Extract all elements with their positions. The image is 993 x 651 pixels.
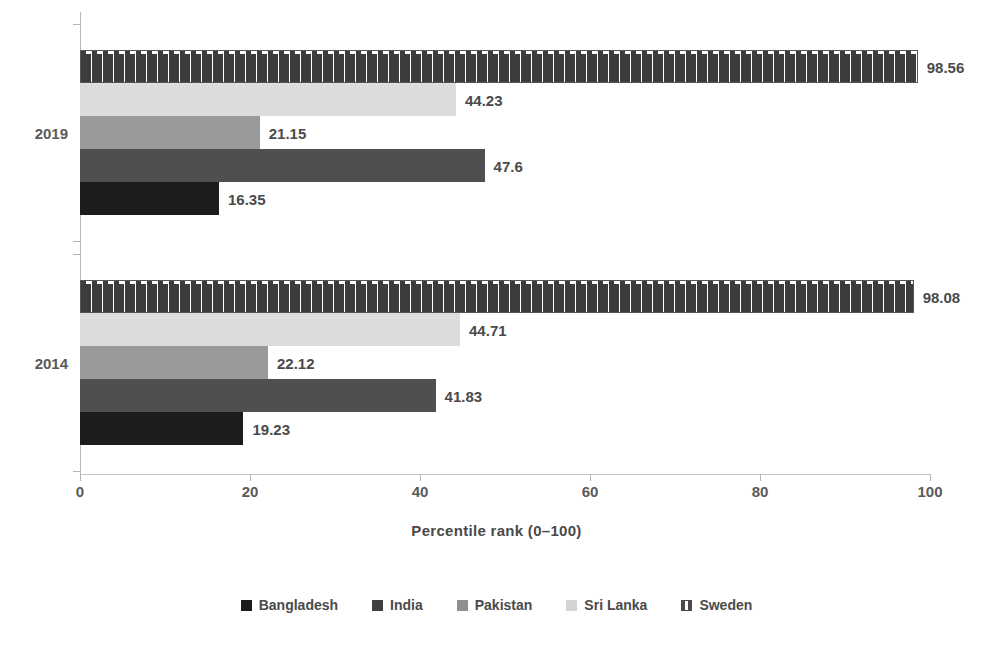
chart-legend: BangladeshIndiaPakistanSri LankaSweden <box>0 597 993 613</box>
x-axis-tick <box>930 474 931 481</box>
x-axis-tick-label: 0 <box>76 483 84 500</box>
bar-value-label: 16.35 <box>228 190 266 207</box>
bar-value-label: 47.6 <box>494 157 523 174</box>
x-axis-tick-label: 20 <box>242 483 259 500</box>
legend-item-label: Bangladesh <box>259 597 338 613</box>
bar-srilanka-2019[interactable] <box>80 83 456 116</box>
x-axis-tick-label: 40 <box>412 483 429 500</box>
legend-swatch-pakistan-icon <box>457 600 468 611</box>
group-label-2019: 2019 <box>8 124 68 141</box>
x-axis-tick-label: 100 <box>917 483 942 500</box>
legend-item-bangladesh[interactable]: Bangladesh <box>241 597 338 613</box>
bar-value-label: 44.23 <box>465 91 503 108</box>
y-axis-group-tick <box>73 24 81 25</box>
bar-srilanka-2014[interactable] <box>80 313 460 346</box>
grouped-bar-chart: 98.5644.2321.1547.616.3598.0844.7122.124… <box>0 0 993 651</box>
legend-item-label: Pakistan <box>475 597 533 613</box>
bar-india-2014[interactable] <box>80 379 436 412</box>
x-axis-tick-label: 80 <box>752 483 769 500</box>
bar-value-label: 98.08 <box>923 288 961 305</box>
legend-swatch-bangladesh-icon <box>241 600 252 611</box>
bar-value-label: 98.56 <box>927 58 965 75</box>
legend-swatch-sweden-icon <box>681 600 692 611</box>
x-axis-tick <box>590 474 591 481</box>
bar-value-label: 44.71 <box>469 321 507 338</box>
x-axis-title: Percentile rank (0–100) <box>0 522 993 539</box>
bar-pakistan-2019[interactable] <box>80 116 260 149</box>
bar-bangladesh-2019[interactable] <box>80 182 219 215</box>
legend-swatch-srilanka-icon <box>566 600 577 611</box>
legend-item-sweden[interactable]: Sweden <box>681 597 752 613</box>
bar-value-label: 19.23 <box>252 420 290 437</box>
x-axis-tick <box>250 474 251 481</box>
x-axis-tick-label: 60 <box>582 483 599 500</box>
bar-value-label: 21.15 <box>269 124 307 141</box>
x-axis-tick <box>420 474 421 481</box>
bar-sweden-2019[interactable] <box>80 50 918 83</box>
legend-item-label: Sri Lanka <box>584 597 647 613</box>
bar-india-2019[interactable] <box>80 149 485 182</box>
bar-pakistan-2014[interactable] <box>80 346 268 379</box>
bar-value-label: 22.12 <box>277 354 315 371</box>
y-axis-group-tick <box>73 471 81 472</box>
y-axis-group-tick <box>73 241 81 242</box>
group-label-2014: 2014 <box>8 354 68 371</box>
legend-swatch-india-icon <box>372 600 383 611</box>
bar-value-label: 41.83 <box>445 387 483 404</box>
legend-item-srilanka[interactable]: Sri Lanka <box>566 597 647 613</box>
x-axis-tick <box>80 474 81 481</box>
legend-item-label: Sweden <box>699 597 752 613</box>
y-axis-group-tick <box>73 254 81 255</box>
legend-item-pakistan[interactable]: Pakistan <box>457 597 533 613</box>
legend-item-label: India <box>390 597 423 613</box>
plot-area: 98.5644.2321.1547.616.3598.0844.7122.124… <box>80 12 930 475</box>
bar-bangladesh-2014[interactable] <box>80 412 243 445</box>
legend-item-india[interactable]: India <box>372 597 423 613</box>
bar-sweden-2014[interactable] <box>80 280 914 313</box>
x-axis-tick <box>760 474 761 481</box>
